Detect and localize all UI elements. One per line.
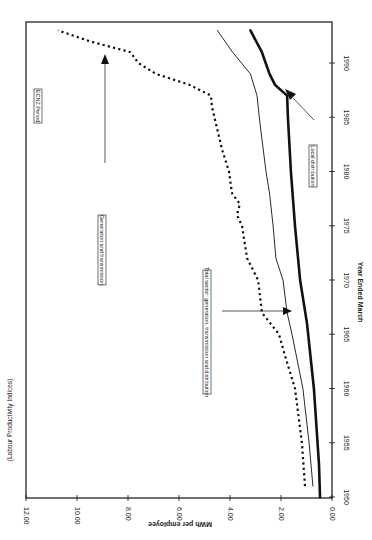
y-tick-label: 10.00 [74,507,81,525]
total-sector-annotation: Total sector: generation, transmission a… [203,267,211,397]
y-tick-label: 0.00 [329,507,336,521]
svg-text:Total sector: generation, tran: Total sector: generation, transmission a… [204,267,210,397]
x-tick-label: 1975 [343,218,350,234]
svg-text:ECNZ Period: ECNZ Period [35,90,41,122]
x-tick-label: 1965 [343,326,350,342]
generation-transmission-annotation: Generation and transmission [98,215,106,285]
x-tick-label: 1970 [343,272,350,288]
x-tick-label: 1985 [343,109,350,125]
x-axis-label: Year Ended March [357,262,364,323]
y-tick-label: 2.00 [278,507,285,521]
y-tick-label: 6.00 [176,507,183,521]
y-tick-label: 12.00 [23,507,30,525]
svg-text:Local distribution: Local distribution [310,145,316,186]
chart-title: (Labour Productivity Indices) [6,379,14,461]
svg-text:Generation and transmission: Generation and transmission [99,215,105,285]
x-tick-label: 1990 [343,55,350,71]
y-tick-label: 8.00 [125,507,132,521]
ecnz-period-annotation: ECNZ Period [34,89,42,123]
x-tick-label: 1960 [343,381,350,397]
x-tick-label: 1980 [343,164,350,180]
background [0,0,372,540]
x-tick-label: 1950 [343,489,350,505]
y-tick-label: 4.00 [227,507,234,521]
x-tick-label: 1955 [343,435,350,451]
local-distribution-annotation: Local distribution [309,145,317,187]
y-axis-label: MWh per employee [148,520,212,528]
productivity-chart: 195019551960196519701975198019851990 0.0… [0,0,372,540]
